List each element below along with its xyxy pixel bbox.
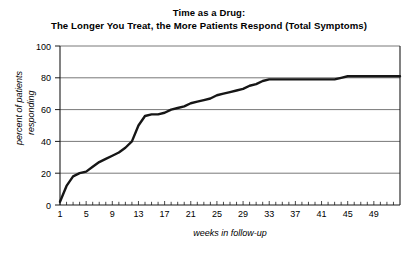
y-tick-labels: 100 80 60 40 20 0: [36, 42, 51, 211]
data-series-line: [60, 76, 400, 202]
y-tick-label: 80: [41, 73, 51, 83]
axis-frame: [60, 46, 400, 205]
x-tick-labels: 1 5 9 13 17 21 25 29 33 37 41 45 49: [57, 209, 378, 219]
y-axis-title-line2: responding: [26, 90, 36, 135]
x-tick-label: 25: [212, 209, 222, 219]
y-axis-title-line1: percent of patients: [14, 70, 24, 146]
y-axis-title: percent of patients responding: [14, 70, 36, 146]
x-tick-label: 9: [110, 209, 115, 219]
x-tick-label: 41: [317, 209, 327, 219]
chart-plot-area: 100 80 60 40 20 0 percent of patients re…: [0, 0, 418, 257]
y-tick-label: 60: [41, 105, 51, 115]
x-tick-label: 1: [57, 209, 62, 219]
x-axis-title: weeks in follow-up: [193, 228, 267, 238]
gridlines: [60, 46, 400, 173]
y-tickmarks: [55, 46, 60, 205]
chart-figure: Time as a Drug: The Longer You Treat, th…: [0, 0, 418, 257]
x-tick-label: 49: [369, 209, 379, 219]
x-tick-label: 45: [343, 209, 353, 219]
y-tick-label: 40: [41, 137, 51, 147]
x-tick-label: 33: [264, 209, 274, 219]
x-minor-tickmarks: [60, 201, 393, 205]
x-tick-label: 37: [290, 209, 300, 219]
x-tick-label: 21: [186, 209, 196, 219]
x-tick-label: 17: [160, 209, 170, 219]
x-tick-label: 13: [133, 209, 143, 219]
x-tick-label: 29: [238, 209, 248, 219]
y-tick-label: 100: [36, 42, 51, 52]
x-tick-label: 5: [84, 209, 89, 219]
y-tick-label: 20: [41, 169, 51, 179]
y-tick-label: 0: [46, 201, 51, 211]
